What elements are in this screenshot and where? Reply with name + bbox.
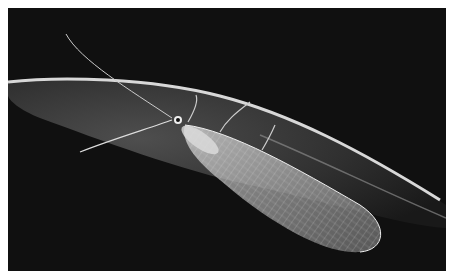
lacewing-photo	[8, 8, 446, 271]
lacewing-illustration	[8, 8, 446, 271]
